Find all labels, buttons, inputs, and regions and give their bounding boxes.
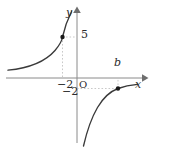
graph-canvas <box>0 0 175 149</box>
x-axis-arrow <box>142 74 149 82</box>
hyperbola-graph: y x O b 5 −2 −2 <box>0 0 175 149</box>
y-tick-label-neg2: −2 <box>62 86 78 97</box>
b-marker-label: b <box>114 57 121 68</box>
origin-label: O <box>79 80 87 90</box>
y-tick-label-5: 5 <box>81 29 88 40</box>
y-axis-label: y <box>66 7 72 18</box>
y-axis-arrow <box>73 7 81 14</box>
x-axis-label: x <box>135 79 141 90</box>
data-point-b-neg2 <box>116 86 120 90</box>
curve-lower-right-branch <box>84 84 138 146</box>
curve-upper-left-branch <box>8 12 72 71</box>
data-point-neg2-5 <box>60 35 64 39</box>
